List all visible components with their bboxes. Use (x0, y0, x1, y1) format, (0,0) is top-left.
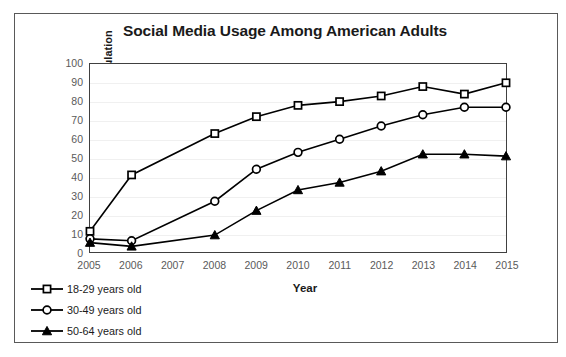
data-point-marker (419, 83, 426, 90)
legend-item[interactable]: 30-49 years old (29, 299, 141, 320)
chart-figure: Social Media Usage Among American Adults… (0, 0, 566, 357)
y-tick-label: 80 (53, 96, 83, 106)
legend-item[interactable]: 50-64 years old (29, 320, 141, 341)
data-point-marker (86, 228, 93, 235)
data-point-marker (211, 130, 218, 137)
x-tick-label: 2005 (66, 259, 112, 271)
series-line (90, 154, 506, 246)
data-point-marker (252, 206, 261, 214)
data-point-marker (294, 149, 302, 157)
x-tick-label: 2009 (233, 259, 279, 271)
data-point-marker (377, 167, 386, 175)
legend-label: 18-29 years old (67, 283, 141, 295)
x-tick-label: 2011 (317, 259, 363, 271)
chart-title: Social Media Usage Among American Adults (55, 22, 515, 40)
data-point-marker (502, 79, 509, 86)
y-tick-label: 40 (53, 172, 83, 182)
legend-label: 30-49 years old (67, 304, 141, 316)
x-axis-label: Year (260, 282, 350, 294)
data-point-marker (294, 102, 301, 109)
data-point-marker (336, 98, 343, 105)
x-tick-label: 2012 (359, 259, 405, 271)
x-tick-label: 2006 (108, 259, 154, 271)
data-point-marker (461, 91, 468, 98)
data-point-marker (502, 103, 510, 111)
y-tick-label: 50 (53, 153, 83, 163)
data-point-marker (461, 103, 469, 111)
y-tick-label: 30 (53, 191, 83, 201)
plot-area (89, 63, 507, 253)
y-tick-label: 100 (53, 58, 83, 68)
y-tick-label: 0 (53, 248, 83, 258)
y-tick-label: 70 (53, 115, 83, 125)
y-tick-label: 90 (53, 77, 83, 87)
legend-marker-open-square-icon (29, 281, 65, 297)
data-point-marker (210, 231, 219, 239)
y-tick-label: 10 (53, 229, 83, 239)
legend-marker-open-circle-icon (29, 302, 65, 318)
data-point-marker (377, 122, 385, 130)
data-point-marker (419, 111, 427, 119)
series-lines (90, 64, 506, 252)
series-line (90, 107, 506, 240)
legend-item[interactable]: 18-29 years old (29, 278, 141, 299)
legend-marker-filled-triangle-icon (29, 323, 65, 339)
y-tick-label: 60 (53, 134, 83, 144)
chart-frame: Social Media Usage Among American Adults… (14, 13, 558, 343)
x-tick-label: 2010 (275, 259, 321, 271)
data-point-marker (378, 92, 385, 99)
x-tick-label: 2008 (191, 259, 237, 271)
x-tick-label: 2013 (400, 259, 446, 271)
x-tick-label: 2007 (150, 259, 196, 271)
data-point-marker (253, 165, 261, 173)
data-point-marker (253, 113, 260, 120)
chart-legend: 18-29 years old30-49 years old50-64 year… (29, 278, 141, 341)
x-tick-label: 2014 (442, 259, 488, 271)
data-point-marker (211, 197, 219, 205)
y-tick-label: 20 (53, 210, 83, 220)
data-point-marker (336, 135, 344, 143)
data-point-marker (128, 171, 135, 178)
legend-label: 50-64 years old (67, 325, 141, 337)
x-tick-label: 2015 (484, 259, 530, 271)
